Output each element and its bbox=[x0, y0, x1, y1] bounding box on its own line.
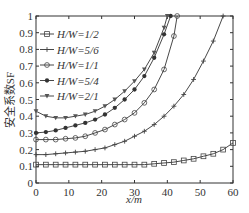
series-1 bbox=[34, 141, 236, 168]
y-tick-label: 0.7 bbox=[19, 60, 33, 72]
svg-text:H/W=1/2: H/W=1/2 bbox=[56, 28, 99, 40]
svg-text:H/W=5/6: H/W=5/6 bbox=[56, 44, 99, 56]
y-tick-label: 0 bbox=[28, 177, 34, 189]
y-tick-label: 0.6 bbox=[19, 77, 33, 89]
y-tick-label: 0.8 bbox=[19, 43, 33, 55]
x-tick-label: 40 bbox=[162, 186, 174, 198]
y-tick-label: 1 bbox=[28, 10, 34, 22]
y-tick-label: 0.1 bbox=[19, 160, 33, 172]
svg-text:H/W=1/1: H/W=1/1 bbox=[56, 59, 99, 71]
y-tick-label: 0.3 bbox=[19, 127, 33, 139]
y-axis-label: 安全系数SF bbox=[3, 72, 16, 128]
chart: 010203040506000.10.20.30.40.50.60.70.80.… bbox=[0, 0, 249, 213]
plot-axes: 010203040506000.10.20.30.40.50.60.70.80.… bbox=[19, 10, 239, 198]
legend-item: H/W=1/2 bbox=[40, 28, 99, 40]
x-tick-label: 20 bbox=[96, 186, 108, 198]
legend-item: H/W=2/1 bbox=[40, 90, 99, 102]
x-axis-label: x/m bbox=[125, 193, 142, 205]
y-tick-label: 0.2 bbox=[19, 144, 33, 156]
x-tick-label: 0 bbox=[33, 186, 39, 198]
y-tick-label: 0.5 bbox=[19, 94, 33, 106]
x-tick-label: 60 bbox=[228, 186, 240, 198]
x-tick-label: 10 bbox=[63, 186, 75, 198]
legend: H/W=1/2H/W=5/6H/W=1/1H/W=5/4H/W=2/1 bbox=[40, 28, 99, 102]
series-3 bbox=[34, 14, 180, 142]
legend-item: H/W=1/1 bbox=[40, 59, 99, 71]
svg-text:H/W=2/1: H/W=2/1 bbox=[56, 90, 99, 102]
legend-item: H/W=5/6 bbox=[40, 44, 99, 56]
y-tick-label: 0.4 bbox=[19, 110, 33, 122]
legend-item: H/W=5/4 bbox=[40, 75, 99, 87]
y-tick-label: 0.9 bbox=[19, 27, 33, 39]
svg-text:H/W=5/4: H/W=5/4 bbox=[56, 75, 99, 87]
x-tick-label: 50 bbox=[195, 186, 207, 198]
